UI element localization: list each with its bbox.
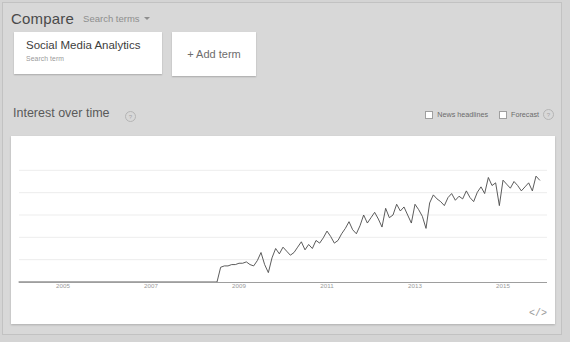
chart-card: 200520072009201120132015 </> (11, 136, 555, 324)
search-terms-dropdown-label: Search terms (83, 13, 140, 24)
page-title: Compare (11, 10, 74, 27)
forecast-label: Forecast (511, 110, 539, 119)
checkbox-icon[interactable] (499, 111, 507, 119)
search-term-label: Social Media Analytics (26, 39, 162, 52)
trends-line-chart (11, 136, 555, 301)
trends-page: Compare Search terms Social Media Analyt… (2, 2, 562, 335)
section-title: Interest over time (13, 106, 110, 120)
term-card-row: Social Media Analytics Search term + Add… (14, 32, 256, 76)
chevron-down-icon (144, 17, 150, 20)
compare-bar: Compare Search terms (11, 7, 555, 29)
interest-over-time-header: Interest over time ? News headlines Fore… (3, 103, 562, 130)
embed-code-icon[interactable]: </> (529, 308, 547, 319)
x-axis-tick-label: 2015 (496, 282, 510, 289)
x-axis-tick-label: 2005 (56, 282, 70, 289)
search-terms-dropdown[interactable]: Search terms (83, 13, 150, 24)
news-headlines-label: News headlines (437, 110, 488, 119)
search-term-sublabel: Search term (26, 55, 162, 62)
chart-plot-area[interactable] (11, 136, 555, 301)
chart-controls: News headlines Forecast ? (425, 109, 554, 120)
search-term-card[interactable]: Social Media Analytics Search term (14, 32, 162, 74)
series-line-social-media-analytics (19, 176, 540, 282)
screenshot-root: Compare Search terms Social Media Analyt… (0, 0, 570, 342)
add-term-button[interactable]: + Add term (172, 32, 256, 76)
chart-x-axis-labels: 200520072009201120132015 (11, 282, 555, 298)
x-axis-tick-label: 2007 (144, 282, 158, 289)
forecast-toggle[interactable]: Forecast ? (499, 109, 554, 120)
news-headlines-toggle[interactable]: News headlines (425, 110, 488, 119)
x-axis-tick-label: 2013 (408, 282, 422, 289)
checkbox-icon[interactable] (425, 111, 433, 119)
forecast-help-icon[interactable]: ? (543, 109, 554, 120)
chart-gridlines (19, 170, 547, 259)
x-axis-tick-label: 2011 (320, 282, 333, 289)
x-axis-tick-label: 2009 (232, 282, 246, 289)
help-icon[interactable]: ? (125, 111, 136, 122)
